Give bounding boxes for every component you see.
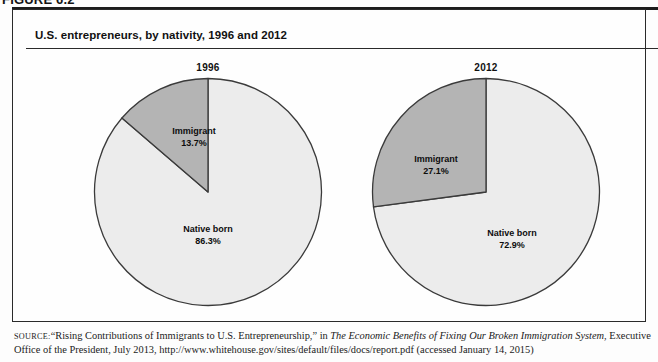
title-divider: [26, 48, 658, 49]
chart-title: U.S. entrepreneurs, by nativity, 1996 an…: [35, 29, 287, 41]
source-note-text-1: “Rising Contributions of Immigrants to U…: [51, 330, 331, 341]
pie-svg-2012: [370, 76, 602, 308]
pie-slice-immigrant-2012: [373, 79, 486, 207]
pie-chart-1996: Immigrant 13.7% Native born 86.3%: [92, 76, 324, 308]
pie-year-label-2012: 2012: [353, 62, 619, 73]
figure-container: U.S. entrepreneurs, by nativity, 1996 an…: [12, 9, 646, 322]
pie-chart-2012: Immigrant 27.1% Native born 72.9%: [370, 76, 602, 308]
source-note: Source:“Rising Contributions of Immigran…: [14, 329, 654, 356]
figure-label-text: FIGURE 6.2: [2, 0, 75, 7]
pie-svg-1996: [92, 76, 324, 308]
source-note-label: Source:: [14, 332, 51, 341]
pie-year-label-1996: 1996: [75, 62, 341, 73]
figure-label: FIGURE 6.2: [0, 0, 260, 9]
source-note-publication-title: The Economic Benefits of Fixing Our Brok…: [330, 330, 604, 341]
